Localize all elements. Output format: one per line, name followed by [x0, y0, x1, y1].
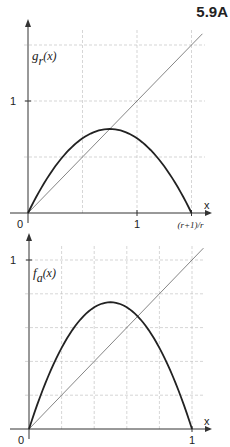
y-tick-label: 1 — [10, 254, 16, 266]
x-tick-label: 1 — [189, 434, 195, 446]
chart-panel-1: 01(r+1)/r1xgr(x) — [10, 19, 212, 230]
chart-figure: 01(r+1)/r1xgr(x)011xfa(x) — [0, 0, 230, 447]
x-axis-label: x — [204, 415, 210, 427]
y-axis-label: gr(x) — [32, 48, 57, 68]
parabola-curve — [29, 302, 192, 429]
y-axis-arrow-icon — [26, 233, 32, 241]
y-axis-arrow-icon — [25, 19, 31, 27]
x-tick-label: 0 — [17, 218, 23, 230]
y-axis-label: fa(x) — [33, 265, 56, 285]
x-tick-label: (r+1)/r — [178, 220, 205, 230]
x-tick-label: 1 — [134, 218, 140, 230]
x-axis-label: x — [204, 199, 210, 211]
y-tick-label: 1 — [10, 95, 16, 107]
chart-panel-2: 011xfa(x) — [10, 233, 212, 446]
parabola-curve — [28, 129, 192, 213]
x-tick-label: 0 — [18, 434, 24, 446]
